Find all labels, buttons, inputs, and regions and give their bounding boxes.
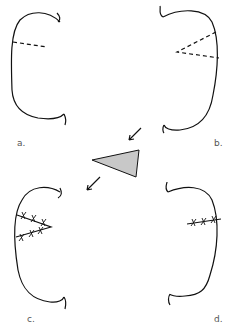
panel-d-ear xyxy=(166,182,221,305)
panel-a-ear xyxy=(11,13,65,125)
excised-wedge xyxy=(87,128,141,190)
panel-c-ear xyxy=(15,187,66,309)
panel-label-c: c. xyxy=(27,314,35,324)
panel-label-d: d. xyxy=(214,314,223,324)
panel-label-a: a. xyxy=(17,138,25,148)
panel-label-b: b. xyxy=(214,138,223,148)
panel-b-ear xyxy=(160,6,219,133)
arrow-down-left-icon xyxy=(87,177,100,190)
ear-diagram xyxy=(0,0,233,331)
arrow-down-left-icon xyxy=(129,128,141,140)
